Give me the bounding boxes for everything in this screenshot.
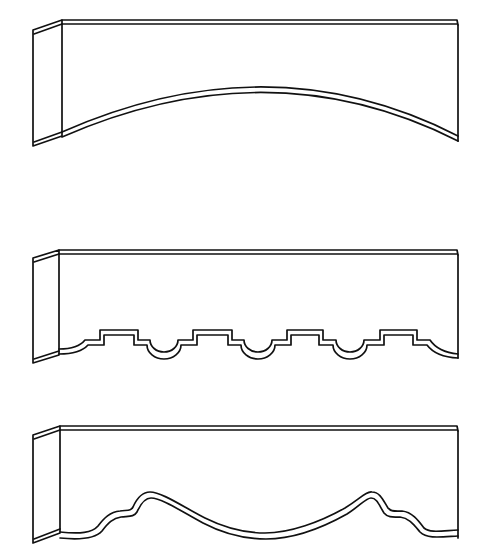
valance-scalloped	[33, 250, 458, 363]
valance-wave-front-face	[60, 426, 458, 539]
valance-scalloped-side-panel	[33, 250, 59, 363]
valance-wave	[33, 426, 458, 543]
valance-diagram-canvas: Arched valance Stepped scallop valance W…	[0, 0, 494, 546]
valance-arched	[33, 20, 458, 146]
valance-arched-side-panel	[33, 20, 62, 146]
valance-wave-side-panel	[33, 426, 60, 543]
valance-scalloped-front-face	[59, 250, 458, 359]
valance-arched-front-face	[62, 20, 458, 141]
valance-figure	[0, 0, 494, 546]
